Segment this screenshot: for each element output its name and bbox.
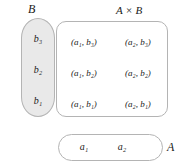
ordered-pair: (a₁, b₁) [58, 100, 110, 109]
set-b-label: B [28, 2, 35, 17]
set-b-element: b₁ [21, 96, 55, 106]
set-b-element: b₂ [21, 65, 55, 75]
set-a-label: A [167, 140, 174, 155]
ordered-pair: (a₂, b₃) [112, 38, 164, 47]
set-b-element: b₃ [21, 34, 55, 44]
set-a-element: a₂ [102, 142, 142, 152]
ordered-pair: (a₂, b₂) [112, 69, 164, 78]
set-a-element: a₁ [64, 142, 104, 152]
cartesian-product-diagram: B b₃ b₂ b₁ A × B (a₁, b₃) (a₂, b₃) (a₁, … [0, 0, 178, 166]
ordered-pair: (a₁, b₃) [58, 38, 110, 47]
ordered-pair: (a₁, b₂) [58, 69, 110, 78]
product-label: A × B [116, 4, 142, 16]
ordered-pair: (a₂, b₁) [112, 100, 164, 109]
